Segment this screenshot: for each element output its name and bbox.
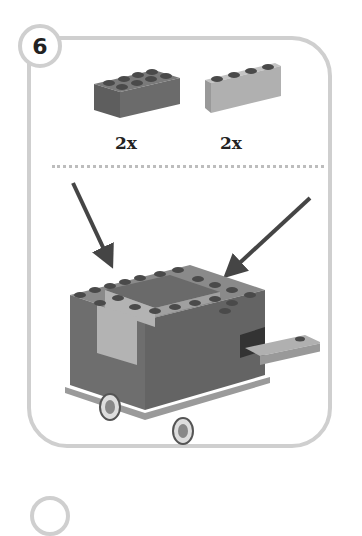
next-step-badge <box>30 496 70 536</box>
assembled-model-illustration <box>60 255 320 445</box>
